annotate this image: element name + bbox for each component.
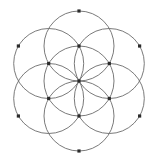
vertex-outer-nw bbox=[17, 44, 20, 47]
seed-of-life-diagram bbox=[0, 0, 162, 163]
vertex-inner-sw bbox=[47, 97, 50, 100]
figure-canvas bbox=[0, 0, 162, 163]
vertex-outer-n bbox=[77, 9, 80, 12]
vertex-inner-n bbox=[77, 44, 80, 47]
vertex-center bbox=[77, 79, 80, 82]
vertex-outer-sw bbox=[17, 114, 20, 117]
vertex-inner-nw bbox=[47, 62, 50, 65]
vertex-inner-se bbox=[108, 97, 111, 100]
vertex-outer-se bbox=[138, 114, 141, 117]
vertex-inner-ne bbox=[108, 62, 111, 65]
vertex-inner-s bbox=[77, 114, 80, 117]
vertex-outer-ne bbox=[138, 44, 141, 47]
vertex-outer-s bbox=[77, 149, 80, 152]
